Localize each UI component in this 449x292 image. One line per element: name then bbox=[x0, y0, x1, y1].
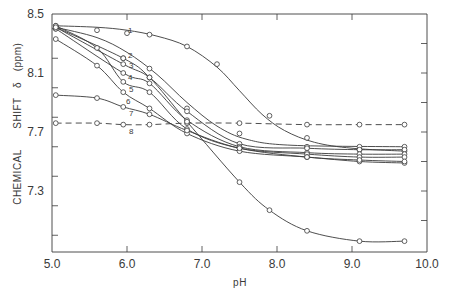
curve-1 bbox=[56, 26, 405, 151]
curve-2 bbox=[56, 27, 405, 146]
curve-label-8: 8 bbox=[129, 127, 134, 136]
data-point bbox=[121, 122, 126, 127]
chemical-shift-chart: 5.0 6.0 7.0 8.0 9.0 10.0 8.5 8.1 7.7 7.3… bbox=[0, 0, 449, 292]
y-axis-title-word1: CHEMICAL bbox=[12, 149, 23, 205]
data-point bbox=[95, 46, 100, 51]
data-point bbox=[305, 155, 310, 160]
curve-3 bbox=[56, 27, 405, 150]
data-point bbox=[121, 56, 126, 61]
data-point bbox=[95, 63, 100, 68]
data-point bbox=[237, 180, 242, 185]
data-point bbox=[215, 62, 220, 67]
curve-label-5: 5 bbox=[129, 85, 134, 94]
data-point bbox=[147, 122, 152, 127]
data-point bbox=[185, 44, 190, 49]
x-tick-label: 6.0 bbox=[119, 257, 136, 271]
data-point bbox=[53, 37, 58, 42]
x-tick-label: 7.0 bbox=[194, 257, 211, 271]
curves bbox=[56, 26, 405, 242]
y-axis-title: CHEMICAL SHIFT δ (ppm) bbox=[12, 43, 23, 205]
curve-label-1: 1 bbox=[128, 26, 133, 35]
data-point bbox=[147, 106, 152, 111]
data-point bbox=[357, 239, 362, 244]
data-point bbox=[357, 158, 362, 163]
data-point bbox=[237, 121, 242, 126]
y-axis-title-word2: SHIFT bbox=[12, 97, 23, 128]
data-point bbox=[305, 136, 310, 141]
curve-7 bbox=[56, 95, 405, 161]
data-point bbox=[237, 146, 242, 151]
data-point bbox=[267, 113, 272, 118]
data-point bbox=[402, 239, 407, 244]
data-point bbox=[147, 90, 152, 95]
data-point bbox=[53, 93, 58, 98]
curve-9 bbox=[56, 27, 405, 242]
y-axis-title-symbol: δ bbox=[12, 82, 23, 88]
data-point bbox=[185, 119, 190, 124]
x-axis-title: pH bbox=[233, 277, 247, 288]
data-point bbox=[237, 131, 242, 136]
curve-label-3: 3 bbox=[129, 61, 134, 70]
data-point bbox=[53, 25, 58, 30]
data-point bbox=[402, 159, 407, 164]
data-point bbox=[147, 112, 152, 117]
data-point bbox=[95, 96, 100, 101]
data-point bbox=[267, 208, 272, 213]
data-point bbox=[147, 32, 152, 37]
data-point bbox=[305, 122, 310, 127]
data-point bbox=[147, 81, 152, 86]
y-axis-title-unit: (ppm) bbox=[12, 43, 23, 72]
data-point bbox=[185, 128, 190, 133]
y-tick-label: 8.5 bbox=[27, 7, 44, 21]
data-point bbox=[185, 109, 190, 114]
y-tick-label: 7.7 bbox=[27, 125, 44, 139]
data-point bbox=[121, 90, 126, 95]
curve-label-2: 2 bbox=[128, 51, 133, 60]
curve-label-6: 6 bbox=[126, 97, 131, 106]
x-tick-label: 10.0 bbox=[415, 257, 439, 271]
x-tick-label: 9.0 bbox=[344, 257, 361, 271]
data-point bbox=[402, 122, 407, 127]
data-point bbox=[357, 122, 362, 127]
x-tick-label: 8.0 bbox=[269, 257, 286, 271]
data-point bbox=[305, 228, 310, 233]
data-point bbox=[53, 121, 58, 126]
y-tick-label: 7.3 bbox=[27, 184, 44, 198]
data-point bbox=[147, 66, 152, 71]
curve-5 bbox=[56, 26, 405, 157]
curve-label-4: 4 bbox=[128, 73, 133, 82]
curve-label-7: 7 bbox=[129, 109, 134, 118]
curve-8 bbox=[56, 123, 405, 125]
data-point bbox=[121, 62, 126, 67]
data-point bbox=[95, 121, 100, 126]
x-tick-label: 5.0 bbox=[44, 257, 61, 271]
curve-4 bbox=[56, 29, 405, 154]
data-point bbox=[121, 71, 126, 76]
data-point bbox=[121, 105, 126, 110]
y-tick-label: 8.1 bbox=[27, 66, 44, 80]
data-point bbox=[147, 75, 152, 80]
data-point bbox=[121, 79, 126, 84]
data-point bbox=[95, 28, 100, 33]
